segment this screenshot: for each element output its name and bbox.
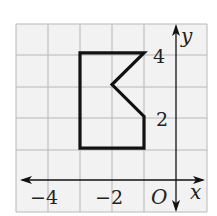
origin-label: O <box>151 185 167 209</box>
y-tick-4: 4 <box>153 45 165 67</box>
y-tick-2: 2 <box>156 108 168 130</box>
y-axis-label: y <box>180 24 193 48</box>
x-tick-neg4: −4 <box>30 186 58 208</box>
x-axis-label: x <box>190 180 201 204</box>
x-tick-neg2: −2 <box>95 186 123 208</box>
coordinate-plane-figure: 4 2 y −4 −2 O x <box>0 0 217 216</box>
